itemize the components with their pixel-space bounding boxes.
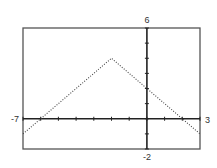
curve-path — [23, 58, 200, 134]
xmax-label: 3 — [205, 115, 210, 125]
xmin-label: -7 — [11, 114, 19, 124]
x-axis — [23, 117, 200, 121]
ymax-label: 6 — [144, 15, 149, 25]
y-axis — [145, 28, 149, 149]
function-curve — [23, 58, 200, 134]
graph-canvas: -7 3 6 -2 — [0, 0, 217, 168]
graph-window: -7 3 6 -2 — [0, 0, 217, 168]
viewing-window-frame — [23, 28, 200, 149]
ymin-label: -2 — [143, 152, 151, 162]
